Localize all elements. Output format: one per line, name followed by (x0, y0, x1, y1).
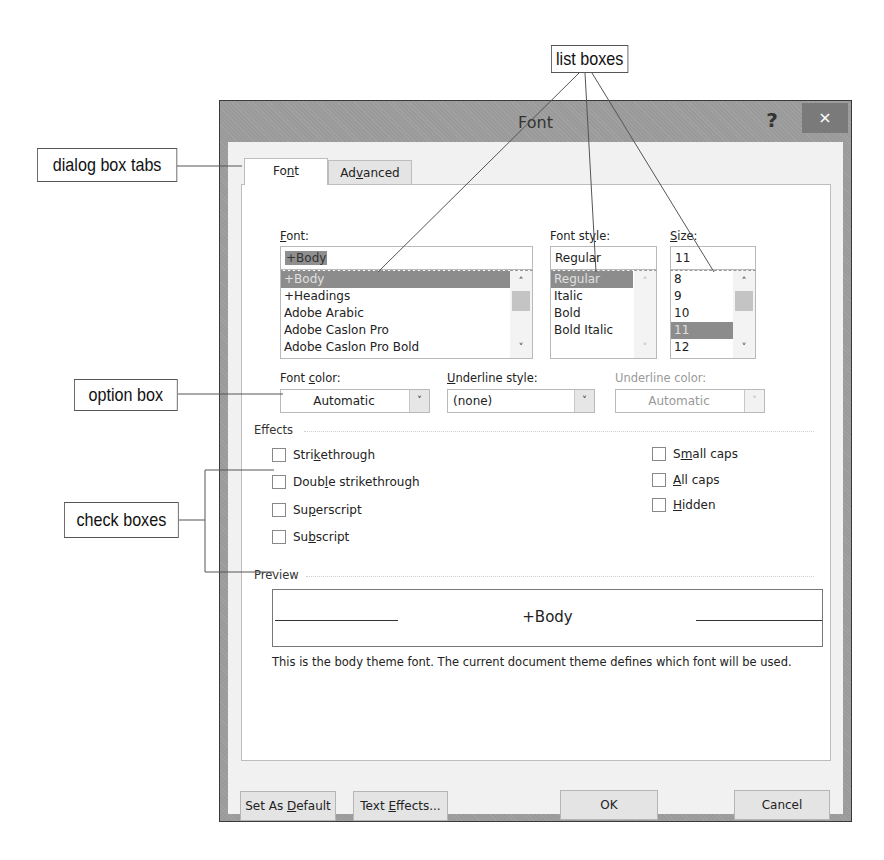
tab-advanced[interactable]: Advanced (328, 160, 412, 186)
size-input[interactable]: 11 (670, 246, 756, 270)
preview-heading: Preview (254, 568, 299, 582)
callout-list-boxes: list boxes (551, 45, 628, 73)
font-list-scrollbar[interactable]: ˄ ˅ (510, 271, 532, 358)
scroll-thumb[interactable] (735, 291, 753, 311)
ok-button[interactable]: OK (560, 790, 658, 820)
scroll-up-icon: ˄ (634, 273, 656, 290)
small-caps-checkbox[interactable]: Small caps (652, 447, 738, 461)
underline-style-value: (none) (448, 390, 572, 412)
dialog-body: Font Advanced Font: +Body +Body +Heading… (228, 142, 843, 814)
preview-description: This is the body theme font. The current… (272, 655, 792, 669)
superscript-checkbox[interactable]: Superscript (272, 503, 362, 517)
font-tab-panel: Font: +Body +Body +Headings Adobe Arabic… (241, 184, 831, 761)
checkbox-icon[interactable] (272, 448, 286, 462)
underline-color-label: Underline color: (615, 371, 706, 385)
checkbox-icon[interactable] (652, 447, 666, 461)
scroll-down-icon[interactable]: ˅ (733, 339, 755, 356)
chevron-down-icon[interactable]: ˅ (409, 390, 429, 412)
scroll-thumb[interactable] (512, 291, 530, 311)
checkbox-icon[interactable] (272, 475, 286, 489)
preview-sample-text: +Body (273, 608, 822, 626)
size-list-scrollbar[interactable]: ˄ ˅ (733, 271, 755, 358)
callout-check-boxes: check boxes (64, 502, 179, 538)
underline-color-dropdown: Automatic ˅ (615, 389, 765, 413)
effects-heading: Effects (254, 423, 293, 437)
size-label: Size: (670, 229, 698, 243)
font-color-value: Automatic (281, 390, 407, 412)
scroll-down-icon: ˅ (634, 339, 656, 356)
font-color-label: Font color: (280, 371, 341, 385)
font-style-label: Font style: (550, 229, 610, 243)
callout-option-box: option box (74, 379, 178, 411)
font-style-input[interactable]: Regular (550, 246, 657, 270)
font-style-item[interactable]: Regular (551, 271, 633, 288)
font-list-item[interactable]: Adobe Caslon Pro Bold (281, 339, 532, 356)
subscript-checkbox[interactable]: Subscript (272, 530, 349, 544)
size-item[interactable]: 11 (671, 322, 733, 339)
hidden-checkbox[interactable]: Hidden (652, 498, 716, 512)
underline-style-label: Underline style: (447, 371, 538, 385)
callout-dialog-box-tabs: dialog box tabs (37, 148, 177, 182)
font-list-item[interactable]: Adobe Arabic (281, 305, 532, 322)
title-bar[interactable]: Font ? × (220, 101, 851, 141)
preview-divider (306, 576, 814, 577)
text-effects-button[interactable]: Text Effects... (353, 791, 448, 821)
effects-divider (304, 431, 814, 432)
font-listbox[interactable]: +Body +Headings Adobe Arabic Adobe Caslo… (280, 270, 533, 359)
scroll-down-icon[interactable]: ˅ (510, 339, 532, 356)
underline-style-dropdown[interactable]: (none) ˅ (447, 389, 595, 413)
font-input[interactable]: +Body (280, 246, 533, 270)
checkbox-icon[interactable] (652, 473, 666, 487)
scroll-up-icon[interactable]: ˄ (733, 273, 755, 290)
tab-font[interactable]: Font (244, 158, 328, 185)
font-list-item[interactable]: +Body (281, 271, 532, 288)
strikethrough-checkbox[interactable]: Strikethrough (272, 448, 375, 462)
font-list-item[interactable]: +Headings (281, 288, 532, 305)
font-style-listbox[interactable]: Regular Italic Bold Bold Italic ˄ ˅ (550, 270, 657, 359)
font-dialog: Font ? × Font Advanced Font: +Body +Body… (219, 100, 852, 822)
cancel-button[interactable]: Cancel (734, 790, 830, 820)
chevron-down-icon: ˅ (744, 390, 764, 412)
underline-color-value: Automatic (616, 390, 742, 412)
all-caps-checkbox[interactable]: All caps (652, 473, 720, 487)
checkbox-icon[interactable] (652, 498, 666, 512)
font-list-item[interactable]: Adobe Caslon Pro (281, 322, 532, 339)
chevron-down-icon[interactable]: ˅ (574, 390, 594, 412)
font-style-scrollbar: ˄ ˅ (634, 271, 656, 358)
checkbox-icon[interactable] (272, 503, 286, 517)
checkbox-icon[interactable] (272, 530, 286, 544)
font-label: Font: (280, 229, 309, 243)
set-as-default-button[interactable]: Set As Default (240, 791, 336, 821)
scroll-up-icon[interactable]: ˄ (510, 273, 532, 290)
help-icon[interactable]: ? (757, 105, 787, 135)
double-strikethrough-checkbox[interactable]: Double strikethrough (272, 475, 420, 489)
close-icon[interactable]: × (802, 103, 848, 133)
font-color-dropdown[interactable]: Automatic ˅ (280, 389, 430, 413)
preview-box: +Body (272, 589, 823, 647)
preview-line-right (696, 620, 822, 621)
size-listbox[interactable]: 8 9 10 11 12 ˄ ˅ (670, 270, 756, 359)
